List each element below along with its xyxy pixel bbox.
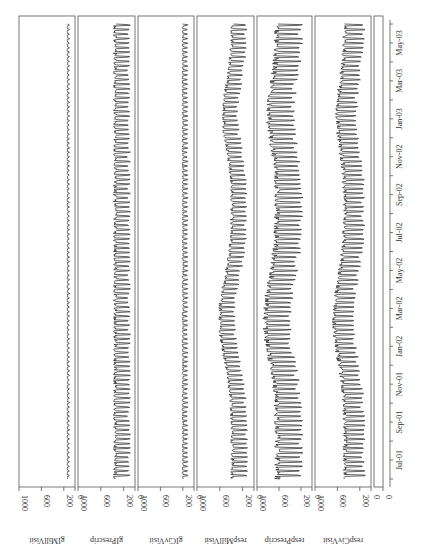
x-tick-label: May-02 — [395, 258, 404, 283]
y-tick-label: 1000 — [139, 495, 148, 511]
y-tick-label: 0 — [372, 495, 381, 499]
x-tick-label: Mar-03 — [395, 69, 404, 93]
panel-label: gIPrescrip — [90, 536, 123, 545]
x-tick-label: Jan-03 — [395, 108, 404, 129]
y-tick-label: 600 — [280, 495, 289, 507]
panel-label: gIMillVisit — [28, 536, 64, 545]
panel-respMillVisit: 02006001000respMillVisit — [197, 16, 264, 545]
y-tick-label: 200 — [65, 495, 74, 507]
panel-gIMillVisit: 02006001000gIMillVisit — [19, 16, 85, 545]
x-tick-label: Nov-02 — [395, 144, 404, 168]
series-line — [67, 24, 69, 479]
multi-panel-time-series-chart: 02006001000gIMillVisit02006001000gIPresc… — [0, 0, 425, 551]
series-line — [182, 24, 188, 479]
y-tick-label: 200 — [244, 495, 253, 507]
y-tick-label: 600 — [42, 495, 51, 507]
panel-label: gICivVisit — [149, 536, 183, 545]
y-tick-label: 200 — [361, 495, 370, 507]
x-tick-label: May-03 — [395, 30, 404, 55]
panel-label: respPrescrip — [265, 536, 305, 545]
panel-respCivVisit: 02006001000respCivVisit — [315, 16, 381, 545]
y-tick-label: 200 — [184, 495, 193, 507]
panel-respPrescrip: 02006001000respPrescrip — [257, 16, 322, 545]
y-tick-label: 200 — [302, 495, 311, 507]
x-tick-label: Jan-02 — [395, 336, 404, 357]
x-tick-label: Jul-01 — [395, 450, 404, 470]
y-tick-label: 1000 — [79, 495, 88, 511]
y-tick-label: 1000 — [258, 495, 267, 511]
series-line — [113, 24, 130, 479]
x-tick-label: Nov-01 — [395, 372, 404, 396]
panel-label: respMillVisit — [204, 536, 247, 545]
y-tick-label: 1000 — [316, 495, 325, 511]
x-tick-label: Sep-01 — [395, 411, 404, 434]
x-tick-label: Mar-02 — [395, 296, 404, 320]
x-axis-dates: Jul-01Sep-01Nov-01Jan-02Mar-02May-02Jul-… — [390, 20, 404, 487]
y-tick-label: 1000 — [20, 495, 29, 511]
y-tick-label: 600 — [221, 495, 230, 507]
y-tick-label: 600 — [338, 495, 347, 507]
series-line — [219, 24, 248, 479]
series-line — [263, 24, 303, 479]
y-tick-label: 600 — [161, 495, 170, 507]
x-tick-label: Sep-02 — [395, 183, 404, 206]
x-tick-label: Jul-02 — [395, 223, 404, 243]
series-line — [332, 24, 365, 479]
svg-text:0: 0 — [384, 495, 393, 499]
y-tick-label: 1000 — [198, 495, 207, 511]
panel-label: respCivVisit — [322, 536, 363, 545]
y-tick-label: 600 — [102, 495, 111, 507]
panel-gICivVisit: 02006001000gICivVisit — [138, 16, 204, 545]
panel-gIPrescrip: 02006001000gIPrescrip — [78, 16, 145, 545]
y-tick-label: 200 — [125, 495, 134, 507]
